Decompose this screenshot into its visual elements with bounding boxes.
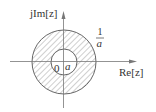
real-axis-label: Re[z] (119, 66, 143, 78)
complex-plane-diagram: jIm[z] Re[z] 0 a 1 a (0, 0, 156, 112)
outer-radius-numerator: 1 (98, 26, 103, 37)
annulus-region (0, 0, 156, 112)
origin-label: 0 (54, 62, 60, 74)
imaginary-axis-label: jIm[z] (29, 7, 57, 19)
outer-radius-denominator: a (97, 37, 103, 49)
inner-radius-label: a (65, 60, 71, 72)
